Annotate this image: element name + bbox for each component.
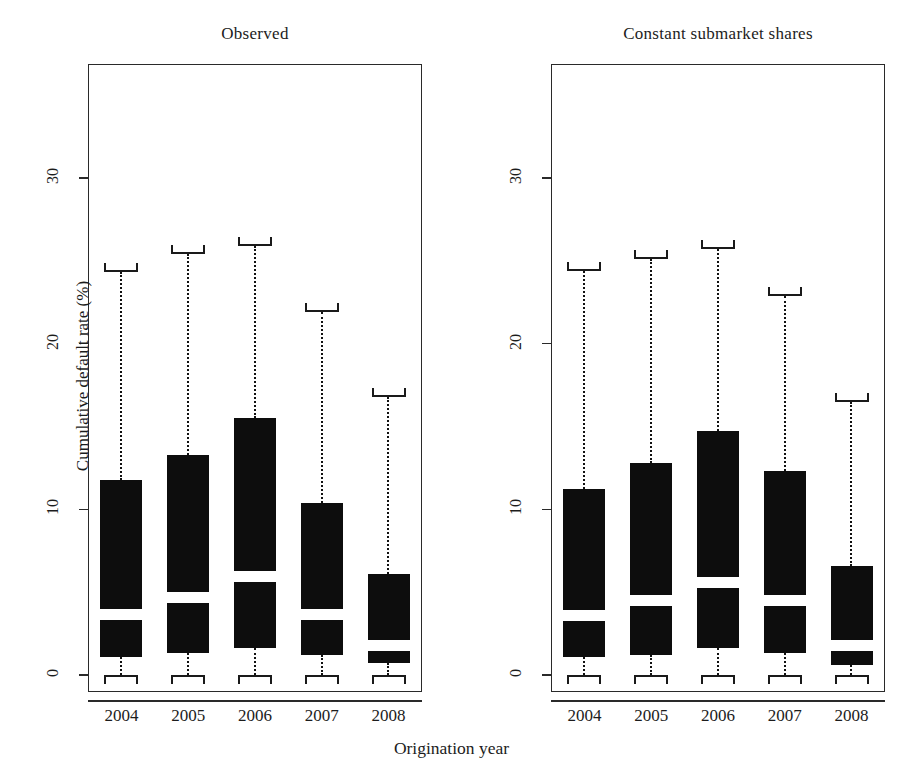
median-line bbox=[697, 577, 739, 588]
upper-whisker-cap bbox=[768, 287, 802, 296]
y-axis-tick-label: 10 bbox=[507, 490, 525, 524]
box-body bbox=[563, 489, 605, 656]
lower-whisker bbox=[650, 655, 652, 675]
box-body bbox=[697, 431, 739, 648]
boxplot-figure: Observed010203020042005200620072008Const… bbox=[0, 0, 903, 774]
x-axis-tick-label: 2008 bbox=[812, 706, 892, 726]
upper-whisker-cap bbox=[701, 240, 735, 249]
upper-whisker bbox=[717, 249, 719, 431]
box-body bbox=[630, 463, 672, 655]
upper-whisker-cap bbox=[835, 393, 869, 402]
y-axis-tick-label: 30 bbox=[507, 159, 525, 193]
upper-whisker-cap bbox=[567, 262, 601, 271]
median-line bbox=[563, 610, 605, 621]
upper-whisker bbox=[583, 271, 585, 490]
panel-constant-submarket-shares: Constant submarket shares010203020042005… bbox=[0, 0, 903, 774]
lower-whisker bbox=[717, 648, 719, 675]
y-axis-tick bbox=[542, 343, 551, 345]
y-axis-tick bbox=[542, 674, 551, 676]
lower-whisker-cap bbox=[701, 675, 735, 684]
median-line bbox=[630, 595, 672, 606]
x-axis-line bbox=[551, 700, 885, 702]
upper-whisker-cap bbox=[634, 250, 668, 259]
lower-whisker-cap bbox=[835, 675, 869, 684]
lower-whisker bbox=[784, 653, 786, 675]
x-axis-title: Origination year bbox=[0, 738, 903, 759]
y-axis-tick-label: 20 bbox=[507, 325, 525, 359]
upper-whisker bbox=[784, 296, 786, 472]
panel-title: Constant submarket shares bbox=[551, 24, 885, 44]
upper-whisker bbox=[850, 402, 852, 566]
y-axis-tick bbox=[542, 509, 551, 511]
lower-whisker bbox=[850, 665, 852, 675]
y-axis-title: Cumulative default rate (%) bbox=[73, 166, 93, 586]
lower-whisker bbox=[583, 657, 585, 675]
box-body bbox=[764, 471, 806, 653]
y-axis-tick-label: 0 bbox=[507, 656, 525, 690]
median-line bbox=[831, 640, 873, 651]
lower-whisker-cap bbox=[634, 675, 668, 684]
y-axis-tick bbox=[542, 177, 551, 179]
lower-whisker-cap bbox=[768, 675, 802, 684]
upper-whisker bbox=[650, 259, 652, 463]
median-line bbox=[764, 595, 806, 606]
lower-whisker-cap bbox=[567, 675, 601, 684]
